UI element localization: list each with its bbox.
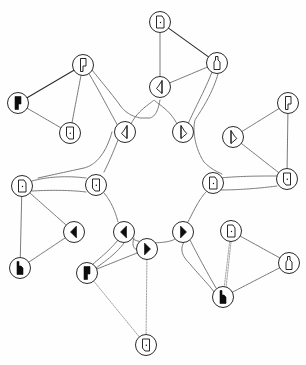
node-ul-b xyxy=(8,93,29,114)
edge-ul-a-ul-b xyxy=(27,70,74,97)
node-ring xyxy=(207,53,228,74)
edge-ll-a-ll-c xyxy=(20,197,21,258)
node-ll-a xyxy=(12,176,33,197)
edge-hexl-hexll xyxy=(104,193,118,222)
node-bot-b xyxy=(137,239,158,260)
hexagon-ring-edges xyxy=(32,70,277,292)
node-ur-a xyxy=(278,93,299,114)
edge-ll-a-ll-b xyxy=(30,193,66,225)
node-ring xyxy=(223,127,244,148)
node-ul-a xyxy=(73,55,94,76)
node-ur-c xyxy=(277,169,298,190)
edge-hexr-urc-1 xyxy=(220,176,277,178)
node-top-c xyxy=(207,53,228,74)
edge-lr-a-lr-b xyxy=(240,236,280,258)
edge-topc-hexr xyxy=(194,74,222,174)
node-hex-lr xyxy=(173,222,194,243)
node-top-b xyxy=(150,77,171,98)
edge-ul-a-ul-c xyxy=(72,75,81,122)
node-bot-c xyxy=(136,335,157,356)
node-hex-l xyxy=(86,175,107,196)
edge-ula-topb xyxy=(92,70,160,118)
edge-hexr-urc-2 xyxy=(220,186,277,190)
edge-bot-b-bot-c xyxy=(146,260,147,335)
edge-hex-top xyxy=(131,100,177,124)
edge-ll-b-ll-c xyxy=(29,238,66,262)
node-ll-c xyxy=(10,258,31,279)
node-lr-a xyxy=(221,221,242,242)
node-top-a xyxy=(150,12,171,33)
edge-hexlr-hexr xyxy=(188,192,206,222)
edge-hexlr-lrc xyxy=(190,240,216,288)
edge-bot-a-bot-c xyxy=(94,281,140,337)
node-ring xyxy=(150,12,171,33)
node-ring xyxy=(203,173,224,194)
edge-hexll-lrc xyxy=(182,238,214,292)
node-ring xyxy=(150,77,171,98)
node-lr-c xyxy=(213,287,234,308)
node-ll-b xyxy=(64,222,85,243)
cluster-edges xyxy=(20,28,288,337)
edge-ula-hexul xyxy=(88,72,118,126)
node-ring xyxy=(221,221,242,242)
node-ring xyxy=(279,253,300,274)
diagram-canvas xyxy=(0,0,306,365)
node-ring xyxy=(73,55,94,76)
nodes-layer xyxy=(8,12,300,356)
node-ring xyxy=(12,176,33,197)
node-ring xyxy=(115,122,136,143)
node-ring xyxy=(278,93,299,114)
node-hex-r xyxy=(203,173,224,194)
node-hex-ul xyxy=(115,122,136,143)
edge-top-a-top-c xyxy=(169,28,209,57)
node-ur-b xyxy=(223,127,244,148)
node-ring xyxy=(173,122,194,143)
network-diagram xyxy=(0,0,306,365)
node-bot-a xyxy=(77,263,98,284)
edge-top-b-top-c xyxy=(170,67,208,83)
edge-ur-a-ur-b xyxy=(242,109,279,132)
edge-ur-a-ur-c xyxy=(287,114,288,169)
node-ul-c xyxy=(60,123,81,144)
edge-ur-b-ur-c xyxy=(241,143,278,172)
edge-lla-hexl-2 xyxy=(32,190,86,192)
node-hex-ll xyxy=(114,222,135,243)
edge-ul-b-ul-c xyxy=(27,108,61,128)
node-hex-ur xyxy=(173,122,194,143)
edge-lr-b-lr-c xyxy=(232,268,279,292)
node-lr-b xyxy=(279,253,300,274)
edge-hexul-hexl xyxy=(104,140,118,172)
